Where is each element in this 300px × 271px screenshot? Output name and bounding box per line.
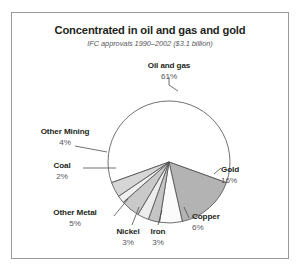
slice-label-oil-and-gas: Oil and gas 61% [113, 61, 225, 81]
slice-label-name-copper: Copper [192, 212, 248, 221]
slice-label-gold: Gold 16% [221, 165, 269, 185]
slice-label-name-coal: Coal [42, 161, 82, 170]
slice-label-value-other-metal: 5% [38, 219, 112, 228]
slice-label-name-oil-and-gas: Oil and gas [113, 61, 225, 70]
slice-label-coal: Coal 2% [42, 161, 82, 181]
leader-line-other-metal [114, 199, 128, 216]
slice-label-nickel: Nickel 3% [106, 227, 150, 247]
slice-label-value-copper: 6% [192, 223, 248, 232]
slice-label-name-other-metal: Other Metal [38, 208, 112, 217]
chart-figure: Concentrated in oil and gas and gold IFC… [11, 12, 289, 259]
slice-label-value-other-mining: 4% [26, 138, 104, 147]
slice-label-other-metal: Other Metal 5% [38, 208, 112, 228]
slice-label-name-other-mining: Other Mining [26, 127, 104, 136]
slice-label-copper: Copper 6% [192, 212, 248, 232]
slice-label-name-nickel: Nickel [106, 227, 150, 236]
slice-label-value-gold: 16% [221, 176, 269, 185]
slice-label-name-gold: Gold [221, 165, 269, 174]
slice-label-value-oil-and-gas: 61% [113, 72, 225, 81]
pie-slice-group [108, 101, 230, 223]
slice-label-value-nickel: 3% [106, 238, 150, 247]
slice-label-value-coal: 2% [42, 172, 82, 181]
slice-label-other-mining: Other Mining 4% [26, 127, 104, 147]
